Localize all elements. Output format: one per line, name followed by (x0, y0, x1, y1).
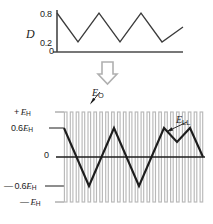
bottom-chart (45, 92, 205, 202)
o-subscript: O (98, 91, 104, 100)
bottom-chart-ytick-minus-eh: — EH (20, 198, 40, 208)
bottom-chart-ytick-0-6eh: 0.6EH (11, 124, 33, 134)
figure-container: D 0.8 0.2 0 + EH 0.6EH 0 — 0.6EH — EH EO… (0, 0, 213, 224)
top-chart-ytick-0: 0 (49, 47, 54, 56)
h-subscript: H (36, 200, 41, 207)
top-chart (53, 10, 183, 52)
ll-subscript: LL (182, 118, 190, 127)
annotation-label-ell: ELL (176, 115, 190, 126)
h-subscript: H (28, 126, 33, 133)
transition-down-arrow-icon (98, 62, 117, 84)
top-chart-ytick-0-8: 0.8 (40, 10, 52, 19)
minus-sign: — (4, 181, 13, 191)
coefficient: 0.6 (11, 123, 23, 133)
minus-sign: — (20, 197, 29, 207)
annotation-label-eo: EO (92, 88, 104, 99)
top-chart-duty-cycle-waveform (57, 13, 183, 42)
h-subscript: H (26, 110, 31, 117)
bottom-chart-ytick-zero: 0 (44, 151, 49, 160)
coefficient: 0.6 (14, 181, 26, 191)
bottom-chart-ytick-plus-eh: + EH (14, 108, 31, 118)
bottom-chart-ytick-minus-0-6eh: — 0.6EH (4, 182, 36, 192)
h-subscript: H (32, 184, 37, 191)
top-chart-y-axis-label: D (26, 28, 35, 40)
plus-sign: + (14, 107, 19, 117)
